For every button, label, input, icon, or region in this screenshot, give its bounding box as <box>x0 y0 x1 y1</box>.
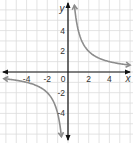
x-tick-label: -2 <box>44 74 52 84</box>
x-axis-arrow-left-icon <box>2 70 8 75</box>
y-axis-arrow-down-icon <box>66 135 71 141</box>
y-tick-label: -4 <box>57 108 65 118</box>
x-axis-label: x <box>125 73 132 84</box>
x-tick-label: 2 <box>86 74 91 84</box>
y-tick-label: 2 <box>60 46 65 56</box>
curves <box>4 5 130 136</box>
hyperbola-graph: -4-202442-2-4xy <box>0 0 133 143</box>
x-tick-label: -4 <box>23 74 31 84</box>
y-tick-label: -2 <box>57 88 65 98</box>
plot-area: -4-202442-2-4xy <box>0 0 133 143</box>
axes <box>2 2 131 141</box>
curve-branch-q1 <box>74 5 130 65</box>
x-tick-label: 0 <box>61 74 66 84</box>
x-tick-label: 4 <box>107 74 112 84</box>
y-axis-arrow-up-icon <box>66 2 71 8</box>
y-axis-label: y <box>59 3 66 14</box>
curve-branch-q3 <box>4 79 62 137</box>
y-tick-label: 4 <box>60 26 65 36</box>
